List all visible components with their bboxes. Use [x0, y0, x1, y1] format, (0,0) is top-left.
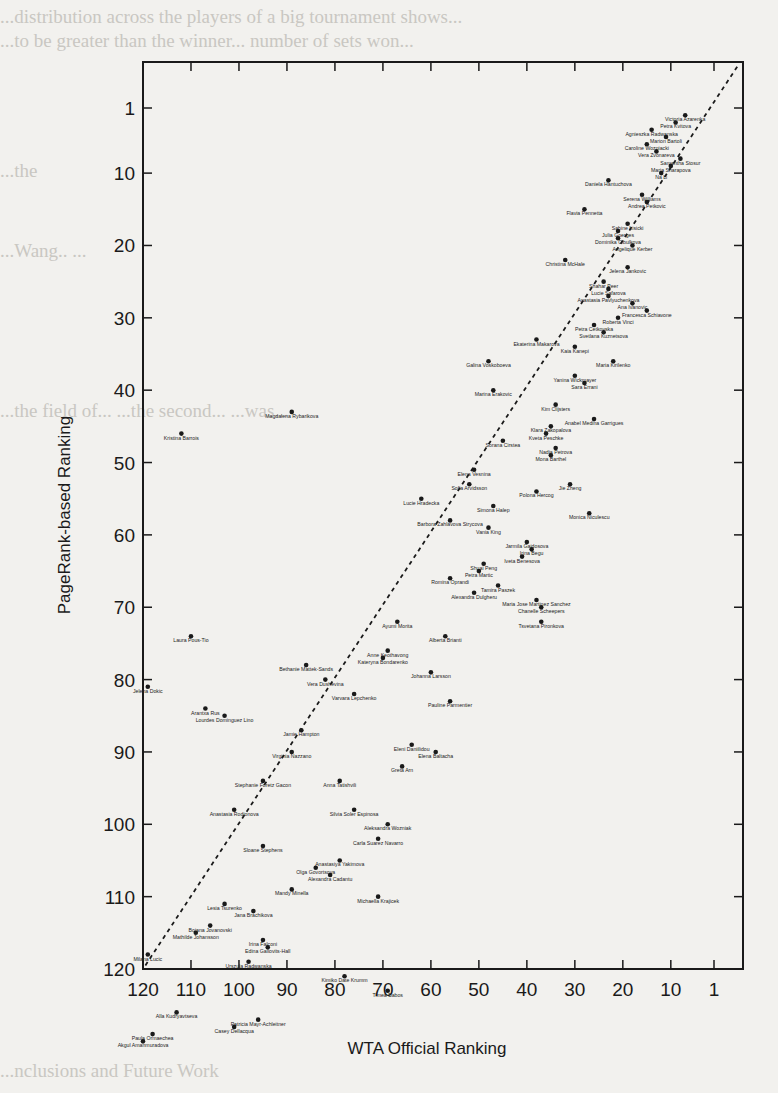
data-point: Simona Halep: [477, 504, 510, 513]
point-label: Varvara Lepchenko: [332, 695, 377, 701]
data-point: Varvara Lepchenko: [332, 692, 377, 701]
scatter-chart: 1201101009080706050403020101 11020304050…: [0, 0, 778, 1093]
point-label: Kaia Kanepi: [561, 348, 589, 354]
point-label: Lesia Tsurenko: [207, 905, 242, 911]
point-label: Kveta Peschke: [529, 435, 564, 441]
point-label: Angelique Kerber: [612, 246, 652, 252]
data-point: Jarmila Gajdosova: [505, 540, 548, 549]
point-label: Paula Ormaechea: [132, 1035, 174, 1041]
data-point: Anna Tatishvili: [323, 779, 356, 788]
y-tick-label: 90: [114, 742, 135, 763]
data-point: Stephanie Foretz Gacon: [235, 779, 291, 788]
data-point: Michaella Krajicek: [357, 894, 399, 903]
point-label: Michaella Krajicek: [357, 898, 399, 904]
x-tick-label: 90: [276, 979, 297, 1000]
point-label: Urszula Radwanska: [225, 963, 271, 969]
data-point: Sofia Arvidsson: [451, 482, 487, 491]
data-point: Kim Clijsters: [541, 402, 570, 411]
point-label: Greta Arn: [391, 767, 413, 773]
data-point: Virginia Nazzano: [272, 750, 311, 759]
y-tick-label: 80: [114, 670, 135, 691]
point-label: Vera Zvonareva: [638, 152, 675, 158]
point-label: Mandy Minella: [275, 890, 309, 896]
data-point: Anastasia Rodionova: [210, 808, 259, 817]
point-label: Timea Babos: [373, 992, 404, 998]
data-point: Jamie Hampton: [283, 728, 319, 737]
point-label: Laura Pous-Tio: [173, 637, 208, 643]
point-label: Petra Martic: [465, 572, 493, 578]
data-point: Nadia Petrova: [539, 446, 572, 455]
point-label: Francesca Schiavone: [622, 312, 672, 318]
data-point: Johanna Larsson: [411, 670, 451, 679]
point-label: Maria Sharapova: [651, 167, 691, 173]
data-point: Aleksandra Wozniak: [364, 822, 412, 831]
point-label: Na Li: [655, 174, 667, 180]
point-label: Stephanie Foretz Gacon: [235, 782, 291, 788]
point-label: Lucie Hradecka: [403, 500, 439, 506]
point-label: Edina Gallovits-Hall: [245, 948, 290, 954]
y-tick-label: 40: [114, 380, 135, 401]
data-point: Christina McHale: [546, 258, 586, 267]
point-label: Iveta Benesova: [504, 558, 540, 564]
data-point: Kimiko Date Krumm: [321, 974, 367, 983]
data-point: Irina Falconi: [249, 938, 277, 947]
data-point: Paula Ormaechea: [132, 1032, 174, 1041]
point-label: Chanelle Scheepers: [518, 608, 565, 614]
x-tick-label: 40: [516, 979, 537, 1000]
point-label: Pauline Parmentier: [428, 702, 472, 708]
data-point: Alberta Brianti: [429, 634, 462, 643]
point-label: Maria Jose Martinez Sanchez: [502, 601, 571, 607]
point-label: Carla Suarez Navarro: [353, 840, 403, 846]
point-label: Magdalena Rybarikova: [265, 413, 318, 419]
point-label: Ayumi Morita: [382, 623, 412, 629]
point-label: Yanina Wickmayer: [553, 377, 596, 383]
point-label: Sofia Arvidsson: [451, 485, 487, 491]
point-label: Johanna Larsson: [411, 673, 451, 679]
point-label: Anastasia Rodionova: [210, 811, 259, 817]
point-label: Lourdes Dominguez Lino: [196, 717, 254, 723]
data-point: Tamira Paszek: [481, 583, 515, 592]
point-label: Petra Kvitova: [660, 123, 691, 129]
data-point: Mandy Minella: [275, 887, 309, 896]
point-label: Mathilde Johansson: [173, 934, 219, 940]
y-tick-label: 110: [105, 887, 135, 908]
point-label: Casey Dellacqua: [215, 1028, 254, 1034]
point-label: Vera Dushevina: [307, 681, 344, 687]
point-label: Anabel Medina Garrigues: [565, 420, 624, 426]
point-label: Alexandra Dulgheru: [451, 594, 497, 600]
data-point: Magdalena Rybarikova: [265, 410, 318, 419]
point-label: Elena Baltacha: [418, 753, 453, 759]
y-tick-label: 10: [114, 163, 135, 184]
data-point: Polona Hercog: [519, 489, 553, 498]
point-label: Samantha Stosur: [660, 160, 700, 166]
point-label: Monica Niculescu: [569, 514, 610, 520]
data-point: Romina Oprandi: [431, 576, 469, 585]
point-label: Jarmila Gajdosova: [505, 543, 548, 549]
data-point: Daniela Hantuchova: [585, 178, 632, 187]
point-label: Anne Keothavong: [367, 652, 408, 658]
data-point: Carla Suarez Navarro: [353, 836, 403, 845]
point-label: Flavia Pennetta: [566, 210, 602, 216]
point-label: Roberta Vinci: [603, 319, 634, 325]
x-tick-label: 110: [176, 979, 206, 1000]
point-label: Caroline Wozniacki: [625, 145, 669, 151]
point-label: Ekaterina Makarova: [513, 341, 559, 347]
point-label: Arantxa Rus: [191, 710, 220, 716]
data-point: Pauline Parmentier: [428, 699, 472, 708]
point-label: Petra Cetkovska: [575, 326, 613, 332]
data-point: Kaia Kanepi: [561, 344, 589, 353]
x-tick-label: 60: [420, 979, 441, 1000]
data-point: Kristina Barrois: [164, 431, 200, 440]
point-label: Tamira Paszek: [481, 587, 515, 593]
point-label: Elena Vesnina: [457, 471, 490, 477]
data-point: Lucie Hradecka: [403, 496, 439, 505]
point-label: Kristina Barrois: [164, 435, 200, 441]
data-point: Milana Lucic: [133, 952, 162, 961]
point-label: Klara Zakopalova: [531, 427, 571, 433]
point-label: Serena Williams: [623, 196, 661, 202]
x-tick-label: 120: [127, 979, 159, 1000]
y-tick-label: 1: [124, 98, 135, 119]
data-point: Anne Keothavong: [367, 648, 408, 657]
data-point: Ayumi Morita: [382, 619, 412, 628]
point-label: Ana Ivanovic: [618, 304, 648, 310]
